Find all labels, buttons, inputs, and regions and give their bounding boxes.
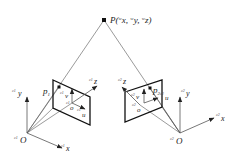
right-v-label: v [136, 93, 140, 101]
right-camera: p2 c2 z c2 v c2 o c2 u c2 y c2 x c2 O [118, 77, 225, 146]
left-x-axis [27, 133, 62, 148]
right-v-sup: c2 [131, 92, 135, 97]
left-origin-sup: c1 [14, 135, 18, 140]
left-u-label: u [82, 111, 86, 119]
right-ray-to-principal [140, 105, 180, 133]
world-point-group: P(wx, wy, wz) [27, 15, 180, 133]
right-u-label: u [165, 94, 169, 102]
right-origin-sup: c2 [170, 136, 174, 141]
right-u-sup: c2 [160, 91, 164, 96]
right-x-label: x [220, 114, 225, 123]
right-y-sup: c2 [181, 88, 185, 93]
right-ray-to-corner [162, 107, 180, 133]
diagram-canvas: P(wx, wy, wz) p1 c1 v c1 o c1 u c1 z c1 … [0, 0, 235, 160]
right-image-point-marker [149, 87, 152, 90]
left-o-label: o [70, 104, 74, 112]
left-origin-label: O [20, 135, 27, 145]
left-ray-to-corner [27, 108, 53, 133]
left-x-label: x [65, 144, 70, 153]
right-z-label: z [122, 77, 127, 86]
left-u-sup: c1 [77, 107, 81, 112]
left-z-sup: c1 [89, 77, 93, 82]
right-u-axis [144, 98, 158, 103]
left-camera: p1 c1 v c1 o c1 u c1 z c1 y c1 O c1 x [12, 77, 98, 153]
right-x-axis [180, 118, 214, 133]
right-origin-label: O [176, 136, 183, 146]
left-v-label: v [65, 92, 69, 100]
left-z-label: z [93, 77, 98, 86]
world-point-label: P(wx, wy, wz) [109, 15, 152, 25]
right-y-label: y [185, 89, 190, 98]
world-point-marker [102, 18, 106, 22]
right-o-sup: c2 [132, 102, 136, 107]
left-y-label: y [17, 89, 22, 98]
right-o-label: o [137, 106, 141, 114]
stereo-camera-diagram: P(wx, wy, wz) p1 c1 v c1 o c1 u c1 z c1 … [0, 0, 235, 160]
left-image-point-marker [58, 86, 61, 89]
left-x-sup: c1 [61, 143, 65, 148]
left-y-sup: c1 [12, 88, 16, 93]
left-p1-label: p1 [42, 86, 50, 97]
left-z-axis [72, 86, 97, 103]
right-x-sup: c2 [216, 112, 220, 117]
left-ray-to-principal [27, 103, 72, 133]
left-p1-sup: c1 [60, 90, 64, 95]
right-z-sup: c2 [118, 77, 122, 82]
